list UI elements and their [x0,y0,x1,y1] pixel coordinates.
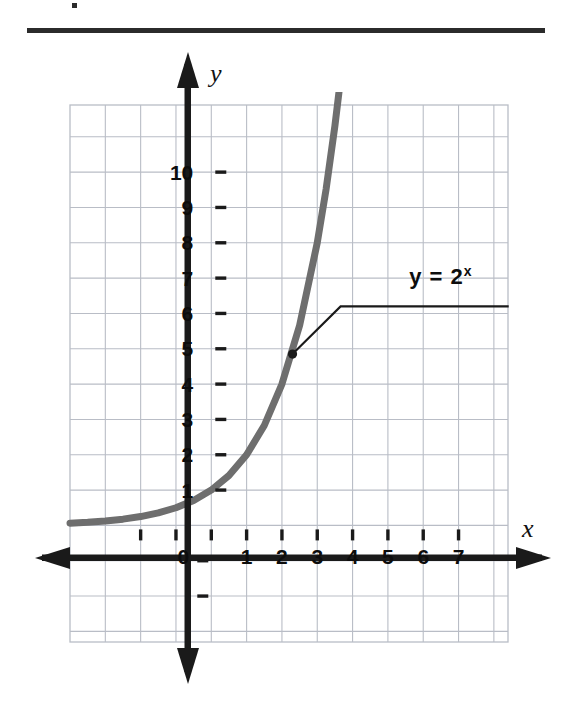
x-axis-line [42,555,542,562]
x-tick-label: 3 [311,545,323,568]
y-tick-label: 7 [182,267,194,290]
y-tick-label: 2 [182,443,194,466]
y-tick-label: 3 [182,408,194,431]
annotation-label: y = 2x [409,263,472,289]
x-tick-label: 7 [453,545,465,568]
page-background [0,0,572,712]
y-tick-label: 5 [182,337,194,360]
y-axis-line [185,64,192,672]
x-tick-label: 1 [241,545,253,568]
y-tick-label: 1 [182,479,194,502]
x-axis-name-label: x [521,514,534,543]
y-tick-label: 6 [182,302,194,325]
annotation-equation-base: y = 2 [409,264,464,289]
y-tick-label: 10 [170,161,193,184]
top-rule [27,28,545,33]
x-tick-label: 2 [276,545,288,568]
origin-tick-label: 0 [177,545,189,568]
y-axis-name-label: y [207,59,222,88]
annotation-anchor-dot [288,349,297,358]
scan-speck [72,3,77,8]
y-tick-label: 9 [182,196,194,219]
y-tick-label: 8 [182,231,194,254]
x-tick-label: 4 [347,545,359,568]
exponential-graph-figure: 12345678910 1234567 0 y x y = 2x [0,0,572,712]
x-tick-label: 6 [417,545,429,568]
annotation-equation-exponent: x [464,263,473,279]
y-tick-label: 4 [182,373,194,396]
x-tick-label: 5 [382,545,394,568]
